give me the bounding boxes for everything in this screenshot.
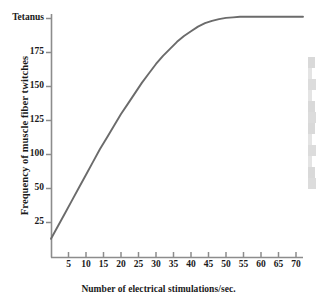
edge-text-sliver [308,178,316,189]
edge-text-sliver [308,134,312,145]
edge-text-sliver [308,123,315,134]
y-axis-ticks [46,19,52,223]
edge-text-sliver [308,156,312,167]
edge-text-sliver [308,68,312,79]
page-edge-text-fragments [307,57,317,192]
plot-area [0,0,317,304]
edge-text-sliver [308,101,315,112]
edge-text-sliver [308,145,316,156]
edge-text-sliver [308,90,312,101]
edge-text-sliver [308,112,316,123]
edge-text-sliver [308,167,315,178]
x-axis-title: Number of electrical stimulations/sec. [0,284,317,294]
tetanus-frequency-chart: Frequency of muscle fiber twitches Tetan… [0,0,317,304]
data-line-frequency [51,17,303,239]
x-axis-ticks [69,252,297,258]
edge-text-sliver [308,57,315,68]
edge-text-sliver [308,79,316,90]
